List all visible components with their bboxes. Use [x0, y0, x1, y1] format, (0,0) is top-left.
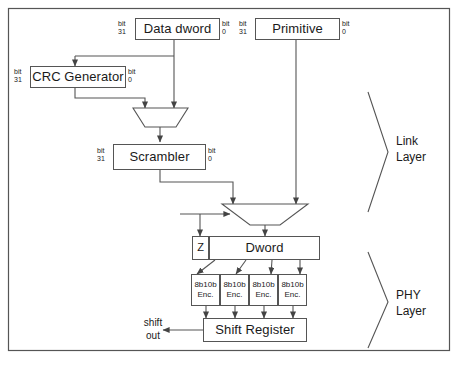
phy-layer-label: PHY Layer	[396, 287, 426, 319]
link-layer-line1: Link	[396, 134, 418, 148]
block-scrambler-label: Scrambler	[129, 150, 189, 164]
scrambler-bit-high: bit 31	[97, 147, 105, 163]
wire-crc-out	[75, 88, 145, 108]
shift-out-label: shift out	[133, 316, 173, 342]
link-layer-label: Link Layer	[396, 133, 426, 165]
block-primitive[interactable]: Primitive	[255, 18, 340, 40]
wire-dword-to-enc-1	[197, 260, 215, 274]
wire-scrambler-out	[160, 170, 233, 204]
mux-dword-input	[222, 204, 308, 225]
block-data-dword[interactable]: Data dword	[135, 18, 220, 40]
encoder-4-line1: 8b10b	[281, 280, 303, 290]
encoder-3-line2: Enc.	[255, 290, 271, 300]
block-shift-register-label: Shift Register	[215, 323, 294, 337]
wire-dword-to-enc-3	[271, 260, 272, 274]
link-layer-bracket	[368, 92, 388, 212]
link-layer-line2: Layer	[396, 150, 426, 164]
mux-scrambler-input	[133, 108, 188, 127]
phy-layer-bracket	[368, 252, 388, 348]
wire-dword-to-enc-2	[236, 260, 246, 274]
encoder-3-line1: 8b10b	[252, 280, 274, 290]
scrambler-bit-low: bit 0	[208, 147, 215, 163]
diagram-canvas: Data dword bit 31 bit 0 Primitive bit 31…	[0, 0, 459, 365]
block-crc-generator[interactable]: CRC Generator	[30, 66, 126, 88]
encoder-1-line2: Enc.	[197, 290, 213, 300]
block-8b10b-encoder-1[interactable]: 8b10b Enc.	[191, 274, 220, 306]
block-z[interactable]: Z	[192, 236, 209, 260]
diagram-connections	[0, 0, 459, 365]
block-z-label: Z	[197, 242, 204, 254]
crc-bit-low: bit 0	[128, 68, 135, 84]
crc-bit-high: bit 31	[14, 68, 22, 84]
block-scrambler[interactable]: Scrambler	[113, 144, 206, 170]
block-dword[interactable]: Dword	[209, 236, 320, 260]
block-shift-register[interactable]: Shift Register	[203, 318, 307, 342]
phy-layer-line1: PHY	[396, 288, 421, 302]
data-dword-bit-high: bit 31	[118, 20, 126, 36]
primitive-bit-high: bit 31	[239, 20, 247, 36]
block-dword-label: Dword	[245, 241, 283, 255]
block-data-dword-label: Data dword	[144, 22, 211, 36]
block-crc-generator-label: CRC Generator	[32, 70, 124, 84]
shift-out-line1: shift	[144, 317, 162, 328]
encoder-4-line2: Enc.	[284, 290, 300, 300]
encoder-2-line1: 8b10b	[223, 280, 245, 290]
shift-out-line2: out	[146, 330, 160, 341]
data-dword-bit-low: bit 0	[222, 20, 229, 36]
encoder-2-line2: Enc.	[226, 290, 242, 300]
block-primitive-label: Primitive	[272, 22, 323, 36]
block-8b10b-encoder-2[interactable]: 8b10b Enc.	[220, 274, 249, 306]
block-8b10b-encoder-3[interactable]: 8b10b Enc.	[249, 274, 278, 306]
phy-layer-line2: Layer	[396, 304, 426, 318]
encoder-1-line1: 8b10b	[194, 280, 216, 290]
primitive-bit-low: bit 0	[342, 20, 349, 36]
block-8b10b-encoder-4[interactable]: 8b10b Enc.	[278, 274, 307, 306]
